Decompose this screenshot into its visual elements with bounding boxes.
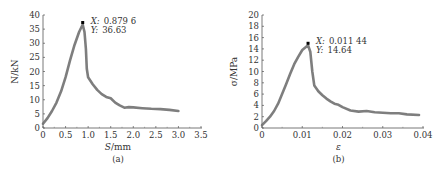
x-axis-variable: ε [336,142,341,152]
x-tick-label: 0 [259,130,264,140]
load-displacement-chart: 00.51.01.52.02.53.03.50510152025303540N/… [0,0,221,176]
data-series-line [262,45,419,125]
chart-panel-a: 00.51.01.52.02.53.03.50510152025303540N/… [0,0,221,176]
x-tick-label: 0.5 [59,130,73,140]
y-tick-label: 15 [29,81,40,91]
y-tick-label: 30 [29,38,40,48]
y-axis-title: σ/MPa [229,56,239,86]
annotation-y-value: 36.63 [102,25,126,35]
x-tick-label: 3.5 [194,130,208,140]
y-tick-label: 14 [248,44,259,54]
y-tick-label: 40 [29,10,40,20]
y-tick-label: 0 [35,123,40,133]
y-tick-label: 5 [35,109,40,119]
y-tick-label: 10 [248,67,259,77]
data-series-line [43,25,178,124]
y-axis-title: N/kN [10,59,20,83]
y-tick-label: 10 [29,95,40,105]
y-tick-label: 2 [254,112,259,122]
peak-marker [307,42,310,45]
x-axis-unit: /mm [111,142,132,152]
x-tick-label: 0 [40,130,45,140]
stress-strain-chart: 00.010.020.030.0402468101214161820σ/MPaε… [221,0,442,176]
y-tick-label: 18 [248,21,259,31]
x-tick-label: 3.0 [172,130,186,140]
x-axis-title: S/mm [105,142,132,152]
annotation-y-label: Y: [316,45,324,55]
y-tick-label: 8 [254,78,259,88]
y-tick-label: 16 [248,33,259,43]
panel-label: (b) [332,154,344,164]
y-tick-label: 0 [254,123,259,133]
y-tick-label: 25 [29,52,40,62]
x-tick-label: 0.04 [414,130,433,140]
y-tick-label: 12 [248,55,259,65]
x-tick-label: 1.5 [104,130,118,140]
y-tick-label: 4 [254,100,259,110]
x-tick-label: 1.0 [81,130,95,140]
x-tick-label: 2.5 [149,130,163,140]
y-tick-label: 20 [248,10,259,20]
annotation-y: Y:14.64 [316,45,352,55]
peak-marker [81,21,84,24]
x-tick-label: 2.0 [127,130,141,140]
x-axis-title: ε [336,142,341,152]
annotation-y-value: 14.64 [327,45,351,55]
chart-panel-b: 00.010.020.030.0402468101214161820σ/MPaε… [221,0,442,176]
y-tick-label: 35 [29,24,40,34]
annotation-y: Y:36.63 [91,25,127,35]
x-tick-label: 0.03 [373,130,392,140]
x-tick-label: 0.02 [333,130,352,140]
x-tick-label: 0.01 [293,130,312,140]
panel-label: (a) [112,154,124,164]
annotation-y-label: Y: [91,25,99,35]
y-tick-label: 20 [29,67,40,77]
y-tick-label: 6 [254,89,259,99]
